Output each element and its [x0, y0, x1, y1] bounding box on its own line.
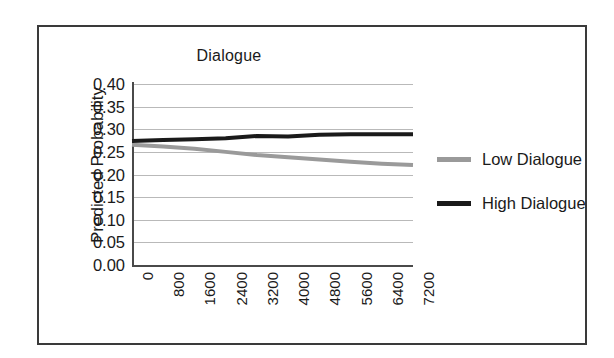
chart-title: Dialogue: [39, 47, 419, 65]
x-tick-label: 5600: [358, 272, 375, 305]
x-tick-label: 1600: [201, 272, 218, 305]
x-tick-label: 0: [139, 272, 156, 280]
y-tick-label: 0.25: [93, 142, 125, 161]
x-tick-label: 4000: [295, 272, 312, 305]
series-line-high-dialogue: [132, 134, 413, 141]
legend-item-high-dialogue[interactable]: High Dialogue: [437, 181, 614, 225]
legend-label-high-dialogue: High Dialogue: [482, 194, 586, 213]
y-tick-label: 0.15: [93, 188, 125, 207]
y-tick-label: 0.20: [93, 165, 125, 184]
series-lines: [132, 84, 413, 265]
legend-label-low-dialogue: Low Dialogue: [482, 150, 582, 169]
x-tick-label: 6400: [389, 272, 406, 305]
x-tick-label: 3200: [264, 272, 281, 305]
y-tick-label: 0.10: [93, 210, 125, 229]
x-tick-label: 7200: [420, 272, 437, 305]
x-axis-line: [132, 265, 413, 267]
x-tick-label: 2400: [233, 272, 250, 305]
y-tick-label: 0.40: [93, 75, 125, 94]
series-line-low-dialogue: [132, 145, 413, 165]
x-tick-label: 4800: [326, 272, 343, 305]
x-tick-label: 800: [170, 272, 187, 297]
legend-item-low-dialogue[interactable]: Low Dialogue: [437, 137, 614, 181]
y-tick-label: 0.35: [93, 97, 125, 116]
figure-frame: Dialogue Predicted Probability 0.000.050…: [37, 25, 587, 345]
legend-swatch-high-dialogue: [437, 201, 471, 206]
chart-legend: Low Dialogue High Dialogue: [437, 137, 614, 225]
plot-area: 0.000.050.100.150.200.250.300.350.40 080…: [132, 84, 413, 265]
y-tick-label: 0.05: [93, 233, 125, 252]
legend-swatch-low-dialogue: [437, 157, 471, 162]
y-tick-label: 0.30: [93, 120, 125, 139]
y-tick-label: 0.00: [93, 256, 125, 275]
